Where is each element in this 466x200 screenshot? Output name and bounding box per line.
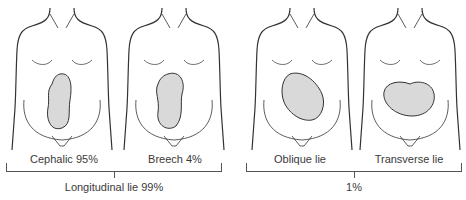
figure-transverse bbox=[350, 0, 466, 150]
figure-cephalic bbox=[2, 0, 120, 150]
group-label-other: 1% bbox=[346, 181, 362, 193]
bracket-longitudinal bbox=[6, 163, 222, 172]
group-label-longitudinal: Longitudinal lie 99% bbox=[65, 181, 163, 193]
torso-cephalic-illustration bbox=[2, 0, 120, 150]
torso-oblique-illustration bbox=[242, 0, 360, 150]
torso-transverse-illustration bbox=[350, 0, 466, 150]
figure-oblique bbox=[242, 0, 360, 150]
bracket-other bbox=[246, 163, 462, 172]
bracket-tick-longitudinal bbox=[114, 172, 115, 178]
torso-breech-illustration bbox=[114, 0, 232, 150]
bracket-tick-other bbox=[354, 172, 355, 178]
figure-breech bbox=[114, 0, 232, 150]
